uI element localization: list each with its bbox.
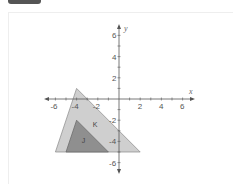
- x-tick-label: -2: [93, 102, 101, 111]
- y-tick-label: -2: [109, 116, 117, 125]
- x-tick-label: 6: [180, 102, 185, 111]
- x-axis-arrow-left-icon: [44, 97, 49, 101]
- coordinate-plane: KJ -6-4-2246642-2-4-6 x y: [0, 0, 233, 184]
- triangle-k-label: K: [93, 121, 98, 128]
- y-axis-label: y: [123, 24, 128, 33]
- y-axis-arrow-up-icon: [117, 24, 121, 29]
- x-axis-arrow-right-icon: [190, 97, 195, 101]
- x-axis-label: x: [188, 87, 193, 96]
- y-tick-label: -4: [109, 137, 117, 146]
- x-tick-label: -4: [72, 102, 80, 111]
- y-tick-label: 6: [112, 31, 117, 40]
- y-tick-label: 4: [112, 53, 117, 62]
- x-tick-label: -6: [50, 102, 58, 111]
- triangle-j-label: J: [82, 137, 86, 144]
- y-axis-arrow-down-icon: [117, 169, 121, 174]
- x-tick-label: 2: [138, 102, 143, 111]
- y-tick-label: 2: [112, 74, 117, 83]
- y-tick-label: -6: [109, 159, 117, 168]
- x-tick-label: 4: [159, 102, 164, 111]
